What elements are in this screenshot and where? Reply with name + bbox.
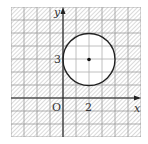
x-axis-label: x <box>134 102 141 115</box>
coordinate-diagram: y x O 2 3 <box>0 0 148 144</box>
y-tick-label-3: 3 <box>54 53 61 66</box>
center-point <box>87 58 91 62</box>
origin-label: O <box>52 101 61 114</box>
x-tick-label-2: 2 <box>85 101 92 114</box>
y-axis-label: y <box>53 6 61 19</box>
